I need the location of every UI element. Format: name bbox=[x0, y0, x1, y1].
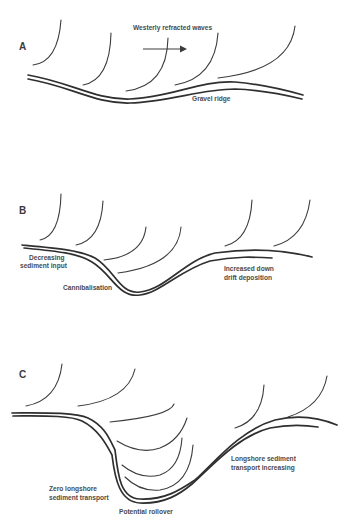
panel-a: A Westerly refracted waves Gravel ridge bbox=[19, 20, 303, 103]
wave-crest bbox=[117, 418, 187, 450]
wave-crest bbox=[235, 385, 264, 428]
wave-crests-c bbox=[26, 364, 327, 490]
panel-label-a: A bbox=[19, 41, 26, 52]
zero-longshore-label-line1: Zero longshore bbox=[49, 485, 97, 493]
wave-crest bbox=[110, 404, 174, 422]
longshore-increasing-label-line1: Longshore sediment bbox=[231, 455, 297, 463]
increased-deposition-label-line1: Increased down bbox=[224, 265, 274, 272]
wave-crest bbox=[76, 201, 103, 245]
wave-crest bbox=[125, 445, 193, 490]
gravel-ridge-seaward bbox=[28, 75, 303, 99]
decreasing-sediment-label-line1: Decreasing bbox=[29, 254, 65, 262]
wave-crest bbox=[104, 227, 146, 260]
panel-b: B Decreasing sediment input Cannibalisat… bbox=[19, 194, 312, 295]
increased-deposition-label-line2: drift deposition bbox=[224, 274, 272, 282]
panel-label-b: B bbox=[19, 205, 26, 216]
cannibalisation-label: Cannibalisation bbox=[63, 284, 112, 291]
wave-crest bbox=[225, 200, 252, 246]
wave-crest bbox=[83, 33, 111, 85]
wave-crest bbox=[33, 20, 61, 65]
waves-direction-label: Westerly refracted waves bbox=[133, 24, 212, 32]
wave-crest bbox=[126, 38, 168, 91]
gravel-ridge-lines bbox=[28, 75, 303, 103]
coastal-evolution-diagram: A Westerly refracted waves Gravel ridge … bbox=[0, 0, 348, 531]
panel-label-c: C bbox=[19, 369, 26, 380]
wave-crest bbox=[78, 369, 135, 406]
gravel-ridge-landward bbox=[28, 79, 302, 103]
longshore-increasing-label-line2: transport increasing bbox=[231, 464, 295, 472]
wave-crest bbox=[118, 227, 181, 273]
wave-direction-arrow-icon bbox=[143, 46, 187, 53]
wave-crest bbox=[218, 26, 295, 78]
wave-crest bbox=[288, 376, 327, 417]
wave-crest bbox=[122, 438, 182, 476]
decreasing-sediment-label-line2: sediment input bbox=[20, 262, 68, 270]
zero-longshore-label-line2: sediment transport bbox=[49, 494, 110, 502]
wave-crest bbox=[274, 200, 310, 246]
potential-rollover-label: Potential rollover bbox=[119, 508, 173, 515]
wave-crest bbox=[40, 194, 61, 240]
wave-crest bbox=[175, 33, 218, 85]
wave-crest bbox=[26, 364, 62, 406]
wave-crests-b bbox=[40, 194, 310, 273]
gravel-ridge-label: Gravel ridge bbox=[192, 95, 231, 103]
panel-c: C Zero longshore sediment transport Pote… bbox=[12, 364, 337, 515]
